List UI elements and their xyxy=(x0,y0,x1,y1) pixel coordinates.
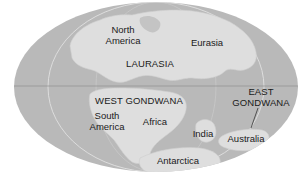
label-africa: Africa xyxy=(143,117,167,128)
label-west-gondwana: WEST GONDWANA xyxy=(95,96,183,107)
label-laurasia: LAURASIA xyxy=(126,59,174,70)
label-east-gondwana-line2: GONDWANA xyxy=(232,98,289,109)
label-east-gondwana: EAST GONDWANA xyxy=(232,87,289,108)
label-australia: Australia xyxy=(228,134,265,145)
label-south-america-line2: America xyxy=(90,122,125,133)
label-north-america: North America xyxy=(106,25,141,46)
label-east-gondwana-line1: EAST xyxy=(232,87,289,98)
label-north-america-line1: North xyxy=(106,25,141,36)
label-antarctica: Antarctica xyxy=(157,156,199,167)
label-india: India xyxy=(193,129,214,140)
label-south-america: South America xyxy=(90,111,125,132)
label-eurasia: Eurasia xyxy=(191,38,223,49)
label-north-america-line2: America xyxy=(106,36,141,47)
label-south-america-line1: South xyxy=(90,111,125,122)
